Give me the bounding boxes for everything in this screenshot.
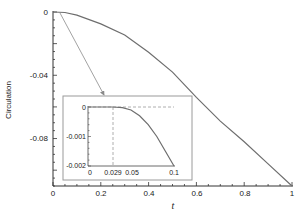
x-tick-label: 0 bbox=[51, 189, 56, 198]
x-tick-label: 1 bbox=[290, 189, 295, 198]
chart: 0 -0.04 -0.08 0 0.2 0.4 0.6 0.8 1 Circul… bbox=[0, 0, 307, 219]
y-ticks bbox=[53, 12, 57, 186]
y-tick-labels: 0 -0.04 -0.08 bbox=[30, 8, 49, 143]
inset-x-tick-label: 0 bbox=[88, 169, 92, 176]
y-tick-label: -0.04 bbox=[30, 71, 49, 80]
y-axis-title: Circulation bbox=[4, 81, 13, 119]
x-tick-label: 0.6 bbox=[191, 189, 203, 198]
x-tick-label: 0.8 bbox=[239, 189, 251, 198]
x-tick-labels: 0 0.2 0.4 0.6 0.8 1 bbox=[51, 189, 295, 198]
zoom-arrow bbox=[60, 13, 104, 95]
inset-x-tick-label: 0.1 bbox=[169, 169, 179, 176]
inset-x-tick-label: 0.05 bbox=[125, 169, 139, 176]
inset-y-tick-label: -0.002 bbox=[66, 162, 86, 169]
inset: 0 -0.001 -0.002 0 0.029 0.05 0.1 bbox=[63, 96, 192, 180]
inset-y-tick-label: -0.001 bbox=[66, 133, 86, 140]
inset-x-tick-label: 0.029 bbox=[104, 169, 122, 176]
inset-y-tick-label: 0 bbox=[82, 104, 86, 111]
x-axis-title: t bbox=[172, 200, 175, 211]
y-tick-label: 0 bbox=[44, 8, 49, 17]
y-tick-label: -0.08 bbox=[30, 134, 49, 143]
x-ticks bbox=[53, 182, 292, 186]
x-tick-label: 0.2 bbox=[95, 189, 107, 198]
x-tick-label: 0.4 bbox=[143, 189, 155, 198]
